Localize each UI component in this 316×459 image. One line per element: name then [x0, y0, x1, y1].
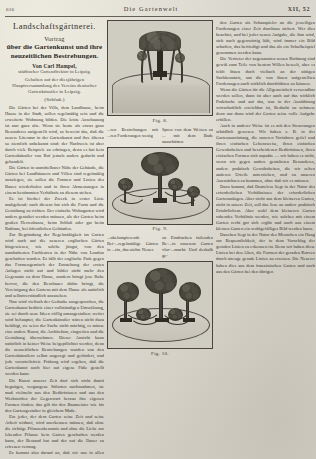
paragraph: Ein jeder, der dem Garten seine Zeit und…	[5, 414, 104, 450]
stub-right: zu Eindrucken failenden Be-...in unserem…	[162, 235, 213, 259]
central-tree-crown	[141, 152, 178, 176]
paragraph: Die Kunst unserer Zeit darf sich nicht d…	[5, 378, 104, 414]
center-column: Fig. 8. ...ren Bestrebungen mit ...ren F…	[107, 20, 213, 455]
stub-left: ...nkelumpierende Bei-...regelmäßige Gär…	[107, 235, 158, 259]
paragraph: Nun wird vielfach der Gedanke ausgesproc…	[5, 299, 104, 378]
left-column-body: Die Gärten bei der Villa, dem Landhause,…	[5, 105, 104, 455]
paragraph: Wenn die Gärten für die Allgemeinheit ve…	[216, 87, 315, 123]
figure-9-image	[107, 147, 213, 225]
right-column-body: den Garten als Schauspieler an die jewei…	[216, 20, 315, 275]
figure-8-image	[107, 20, 213, 116]
figure-10-image	[107, 261, 213, 349]
journal-title: Die Gartenwelt	[14, 5, 287, 12]
header-rule	[5, 16, 311, 17]
figure-10: Fig. 10.	[107, 261, 213, 358]
dome-foliage	[139, 31, 181, 51]
central-pillar	[157, 51, 163, 73]
page-folio: 616	[6, 7, 14, 12]
figure-8-caption: Fig. 8.	[107, 116, 213, 125]
figure-9: Fig. 9.	[107, 147, 213, 234]
paragraph: Dazu kommt, daß Dumeless liegt in der Na…	[216, 184, 315, 233]
center-text-stub-top: ...ren Bestrebungen mit ...ren Forderung…	[107, 127, 213, 145]
apron-hatching	[113, 85, 209, 113]
continuation-marker: (Schluß.)	[5, 97, 104, 102]
paragraph: Auch in anderer Weise ist es mit den Ste…	[216, 123, 315, 184]
lawn-apron	[112, 85, 210, 113]
running-head: 616 Die Gartenwelt XII, 52	[6, 5, 310, 16]
figure-9-caption: Fig. 9.	[107, 225, 213, 234]
paragraph: Die Gärten in unmittelbarer Nähe der Geb…	[5, 165, 104, 195]
stub-right: Spreu von dem Weizen zu ... mit dem Bade…	[162, 127, 213, 145]
byline-author: Von Carl Hampel,	[5, 63, 104, 69]
right-column: den Garten als Schauspieler an die jewei…	[216, 20, 315, 455]
paragraph: Es ist hierbei der Zweck in erster Linie…	[5, 196, 104, 232]
tree-right-crown	[179, 282, 201, 302]
tree-left-crown	[117, 282, 139, 302]
pillar-base	[153, 71, 167, 77]
paragraph: den Garten als Schauspieler an die jewei…	[216, 20, 315, 56]
tree-center-crown	[145, 268, 176, 294]
dome-foliage-right	[175, 53, 185, 63]
paragraph: Daneben liegt in der Natur des Menschen …	[216, 232, 315, 274]
left-column: Landschaftsgärtnerei. Vortrag über die G…	[5, 20, 104, 455]
byline-role: städtischer Gartendirektor in Leipzig.	[5, 69, 104, 75]
center-text-stub-mid: ...nkelumpierende Bei-...regelmäßige Gär…	[107, 235, 213, 259]
journal-page: 616 Die Gartenwelt XII, 52 Landschaftsgä…	[0, 0, 316, 459]
central-tree-base	[153, 198, 167, 203]
issue-number: XII, 52	[288, 6, 310, 12]
stub-left: ...ren Bestrebungen mit ...ren Forderung…	[107, 127, 158, 145]
figure-10-caption: Fig. 10.	[107, 349, 213, 358]
section-title: Landschaftsgärtnerei.	[5, 22, 104, 31]
lecture-title: über die Gartenkunst und ihre neuzeitlic…	[5, 43, 104, 60]
paragraph: Es kommt also darauf an, daß wir uns in …	[5, 450, 104, 455]
tree-right-base	[183, 318, 195, 322]
column-grid: Landschaftsgärtnerei. Vortrag über die G…	[5, 20, 311, 455]
paragraph: Die Vertreter der sogenannten neuen Rich…	[216, 56, 315, 86]
paragraph: Zur Begründung der Regelmäßigkeit im Gar…	[5, 232, 104, 299]
paragraph: Die Gärten bei der Villa, dem Landhause,…	[5, 105, 104, 166]
occasion-note: Gehalten auf der diesjährigen Hauptversa…	[5, 77, 104, 96]
tree-left-base	[120, 318, 132, 322]
tree-center-base	[155, 318, 169, 322]
title-block: Landschaftsgärtnerei. Vortrag über die G…	[5, 22, 104, 102]
kicker: Vortrag	[5, 35, 104, 42]
figure-8: Fig. 8.	[107, 20, 213, 125]
